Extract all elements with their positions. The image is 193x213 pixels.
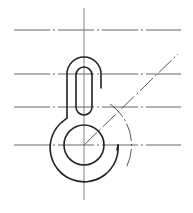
technical-drawing (0, 0, 193, 213)
drawing-canvas (0, 0, 193, 213)
construction-arc (110, 104, 132, 168)
ring-arc-tick (117, 145, 118, 150)
